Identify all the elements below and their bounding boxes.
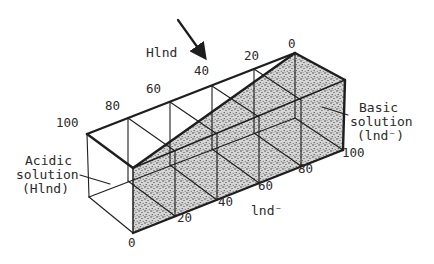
hind-axis-label: Hlnd <box>146 45 177 60</box>
hind-tick-100: 100 <box>56 115 79 130</box>
svg-text:solution: solution <box>350 114 413 129</box>
svg-text:solution: solution <box>16 167 79 182</box>
ind-tick-40: 40 <box>218 194 233 209</box>
left-top-edge <box>87 134 133 168</box>
ind-axis-label: lnd⁻ <box>251 203 282 218</box>
ind-minus-wedge <box>133 53 345 233</box>
ind-tick-20: 20 <box>177 210 192 225</box>
arrow-icon <box>178 20 203 55</box>
hind-tick-80: 80 <box>105 98 120 113</box>
left-back-vertical <box>87 134 89 197</box>
hind-tick-60: 60 <box>146 81 161 96</box>
basic-annotation: Basic solution (lnd⁻) <box>350 100 413 143</box>
ind-tick-80: 80 <box>298 161 313 176</box>
svg-text:(lnd⁻): (lnd⁻) <box>357 128 404 143</box>
svg-text:Basic: Basic <box>359 100 398 115</box>
svg-text:(Hlnd): (Hlnd) <box>22 181 69 196</box>
left-bottom-edge <box>89 197 133 233</box>
ind-tick-100: 100 <box>342 145 365 160</box>
hind-tick-20: 20 <box>244 48 259 63</box>
svg-text:Acidic: Acidic <box>25 153 72 168</box>
indicator-wedge-diagram: Hlnd lnd⁻ 100 80 60 40 20 0 0 20 40 60 8… <box>0 0 434 264</box>
ind-tick-0: 0 <box>128 235 136 250</box>
acidic-leader-line <box>80 175 110 184</box>
hind-tick-40: 40 <box>194 63 209 78</box>
acidic-annotation: Acidic solution (Hlnd) <box>16 153 79 196</box>
ind-tick-60: 60 <box>258 178 273 193</box>
hind-tick-0: 0 <box>288 36 296 51</box>
